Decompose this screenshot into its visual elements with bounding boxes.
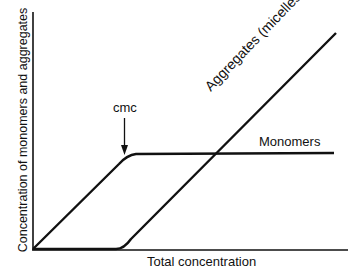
cmc-annotation: cmc: [113, 100, 137, 115]
monomers-label: Monomers: [259, 134, 320, 149]
y-axis-label: Concentration of monomers and aggregates: [16, 8, 30, 253]
monomers-curve: [33, 153, 334, 249]
x-axis-label: Total concentration: [147, 254, 256, 269]
cmc-arrow-icon: [121, 118, 128, 155]
